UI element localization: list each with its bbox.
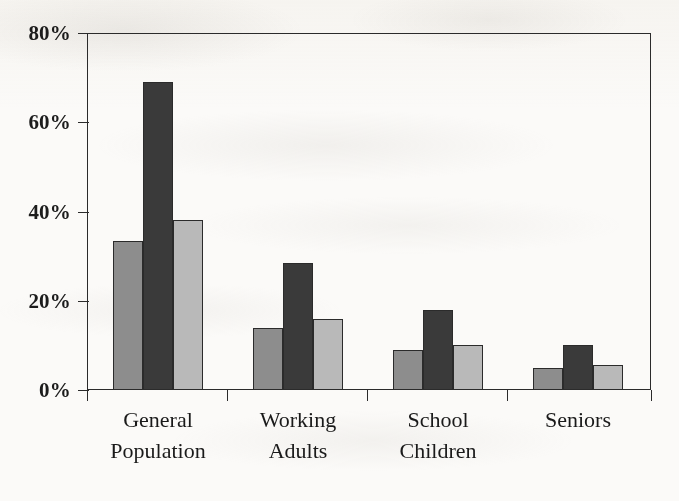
y-axis-tick-label: 0% [1,378,71,403]
bar[interactable] [393,350,423,390]
bar[interactable] [313,319,343,390]
bar[interactable] [113,241,143,390]
bar[interactable] [143,82,173,390]
bar-group [253,33,343,390]
y-axis: 0%20%40%60%80% [0,0,87,501]
bar-group [533,33,623,390]
x-axis-tick-mark [651,390,652,401]
y-axis-tick-label: 60% [1,110,71,135]
x-axis-tick-mark [227,390,228,401]
x-axis-category-label: Seniors [498,404,658,435]
x-axis-category-label: School Children [358,404,518,466]
bars-layer [87,33,651,390]
bar-group [393,33,483,390]
chart-page: 0%20%40%60%80% General PopulationWorking… [0,0,679,501]
x-axis-category-label: Working Adults [218,404,378,466]
bar[interactable] [173,220,203,390]
y-axis-tick-label: 80% [1,21,71,46]
x-axis-category-label: General Population [78,404,238,466]
bar[interactable] [253,328,283,390]
bar[interactable] [283,263,313,390]
y-axis-tick-label: 40% [1,199,71,224]
bar[interactable] [533,368,563,390]
bar[interactable] [423,310,453,390]
bar[interactable] [453,345,483,390]
x-axis-tick-mark [87,390,88,401]
x-axis-labels: General PopulationWorking AdultsSchool C… [87,404,651,494]
x-axis-tick-mark [507,390,508,401]
bar[interactable] [593,365,623,390]
y-axis-tick-label: 20% [1,288,71,313]
bar[interactable] [563,345,593,390]
bar-group [113,33,203,390]
x-axis-tick-mark [367,390,368,401]
x-axis-ticks [87,390,651,402]
